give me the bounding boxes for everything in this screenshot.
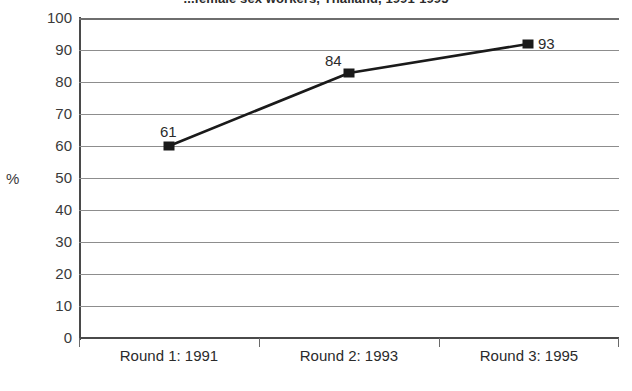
x-axis-tick-0 xyxy=(79,338,80,347)
data-point-label-2: 93 xyxy=(538,36,555,51)
x-axis-tick-3 xyxy=(618,338,619,347)
data-point-label-0: 61 xyxy=(160,124,177,139)
x-category-label-0: Round 1: 1991 xyxy=(79,347,259,364)
gridline-50 xyxy=(79,178,619,179)
plot-area xyxy=(79,18,619,338)
x-axis-line xyxy=(79,337,619,339)
gridline-20 xyxy=(79,274,619,275)
x-axis-tick-1 xyxy=(259,338,260,347)
x-category-label-1: Round 2: 1993 xyxy=(259,347,439,364)
y-tick-label-20: 20 xyxy=(10,266,72,281)
data-point-marker-2 xyxy=(523,40,534,49)
gridline-70 xyxy=(79,114,619,115)
line-chart: ...female sex workers, Thailand, 1991-19… xyxy=(0,0,632,391)
data-point-marker-1 xyxy=(344,69,355,78)
chart-title: ...female sex workers, Thailand, 1991-19… xyxy=(0,0,632,6)
y-tick-label-0: 0 xyxy=(10,330,72,345)
x-axis-tick-2 xyxy=(439,338,440,347)
y-tick-label-80: 80 xyxy=(10,74,72,89)
y-tick-label-30: 30 xyxy=(10,234,72,249)
y-tick-label-10: 10 xyxy=(10,298,72,313)
data-point-marker-0 xyxy=(164,142,175,151)
y-tick-label-90: 90 xyxy=(10,42,72,57)
y-tick-label-100: 100 xyxy=(10,10,72,25)
gridline-30 xyxy=(79,242,619,243)
x-category-label-2: Round 3: 1995 xyxy=(439,347,619,364)
y-tick-label-60: 60 xyxy=(10,138,72,153)
gridline-100 xyxy=(79,18,619,20)
data-point-label-1: 84 xyxy=(325,53,342,68)
gridline-80 xyxy=(79,82,619,83)
gridline-60 xyxy=(79,146,619,147)
gridline-10 xyxy=(79,306,619,307)
y-tick-label-50: 50 xyxy=(10,170,72,185)
y-tick-label-40: 40 xyxy=(10,202,72,217)
gridline-40 xyxy=(79,210,619,211)
y-axis-tick-labels: 100 90 80 70 60 50 40 30 20 10 0 xyxy=(0,0,72,391)
y-tick-label-70: 70 xyxy=(10,106,72,121)
